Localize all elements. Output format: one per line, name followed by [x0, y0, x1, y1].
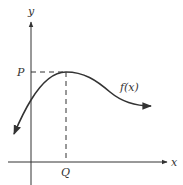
x-axis-label: x [171, 156, 178, 169]
function-maximum-diagram: y x P Q f(x) [0, 0, 183, 185]
q-label: Q [61, 166, 70, 179]
p-label: P [16, 66, 25, 79]
y-axis-label: y [27, 5, 35, 18]
curve-label: f(x) [119, 81, 139, 94]
